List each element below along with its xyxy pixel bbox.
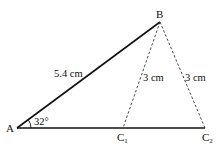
length-label-bc1: 3 cm	[143, 72, 164, 83]
point-label-a: A	[6, 122, 14, 134]
segment-ab	[17, 22, 160, 128]
point-label-b: B	[156, 8, 163, 20]
triangle-diagram: A B C1 C2 5.4 cm 3 cm 3 cm 32°	[0, 0, 218, 150]
angle-label: 32°	[34, 116, 49, 127]
length-label-bc2: 3 cm	[185, 72, 206, 83]
length-label-ab: 5.4 cm	[54, 68, 83, 79]
point-label-c2: C2	[202, 131, 213, 145]
angle-arc	[28, 120, 31, 128]
point-label-c1: C1	[117, 131, 128, 145]
